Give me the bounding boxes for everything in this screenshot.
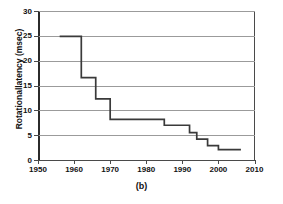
x-tick-1980 <box>146 160 147 164</box>
x-tick-1950 <box>38 160 39 164</box>
y-tick-15 <box>34 86 39 87</box>
y-tick-label-10: 10 <box>8 107 32 115</box>
x-tick-2000 <box>218 160 219 164</box>
x-tick-1970 <box>110 160 111 164</box>
y-tick-label-25: 25 <box>8 32 32 40</box>
gridline-y-20 <box>38 61 255 62</box>
y-tick-label-20: 20 <box>8 57 32 65</box>
gridline-y-25 <box>38 36 255 37</box>
figure-caption: (b) <box>0 181 283 191</box>
y-tick-label-5: 5 <box>8 132 32 140</box>
x-tick-label-2000: 2000 <box>203 165 233 174</box>
figure-rotational-latency: Rotationallatency (msec) (b) 05101520253… <box>0 0 283 204</box>
y-tick-25 <box>34 36 39 37</box>
gridline-y-10 <box>38 110 255 111</box>
y-tick-20 <box>34 61 39 62</box>
y-tick-5 <box>34 135 39 136</box>
y-tick-label-0: 0 <box>8 157 32 165</box>
gridline-y-30 <box>38 11 255 12</box>
x-tick-1990 <box>182 160 183 164</box>
x-tick-label-1950: 1950 <box>23 165 53 174</box>
x-tick-1960 <box>74 160 75 164</box>
x-tick-label-1960: 1960 <box>59 165 89 174</box>
x-tick-2010 <box>255 160 256 164</box>
x-tick-label-1990: 1990 <box>167 165 197 174</box>
gridline-y-15 <box>38 86 255 87</box>
y-tick-30 <box>34 11 39 12</box>
y-tick-label-15: 15 <box>8 82 32 90</box>
x-tick-label-2010: 2010 <box>240 165 270 174</box>
gridline-y-5 <box>38 135 255 136</box>
x-tick-label-1980: 1980 <box>131 165 161 174</box>
y-tick-10 <box>34 110 39 111</box>
x-tick-label-1970: 1970 <box>95 165 125 174</box>
y-tick-label-30: 30 <box>8 8 32 16</box>
